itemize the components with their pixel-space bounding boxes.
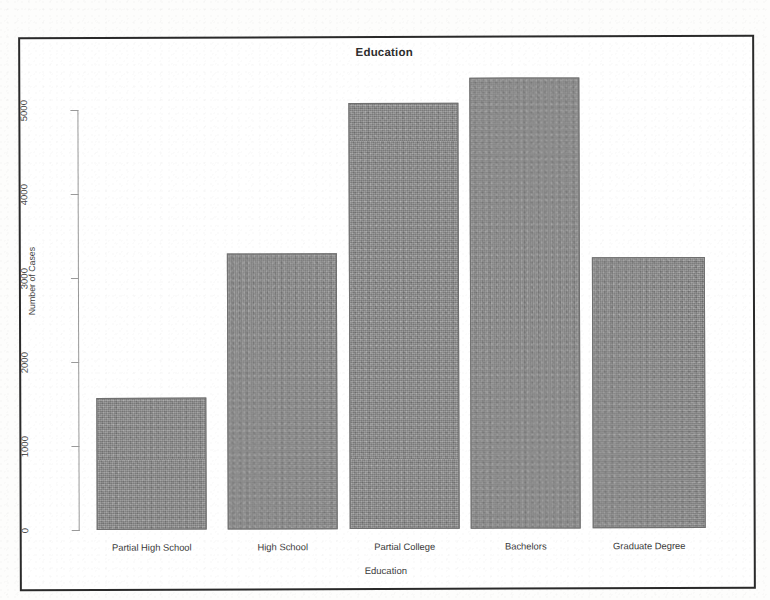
x-axis-label-bachelors: Bachelors — [471, 540, 581, 551]
y-axis-tick-label-0: 0 — [19, 501, 30, 561]
x-axis-label-graduate-degree: Graduate Degree — [593, 540, 706, 551]
y-axis-tick-3000 — [71, 278, 79, 279]
y-axis-title: Number of Cases — [27, 226, 37, 336]
y-axis-tick-label-4000: 4000 — [18, 165, 29, 225]
x-axis-title: Education — [1, 564, 770, 577]
x-axis-label-partial-college: Partial College — [350, 541, 460, 552]
x-axis-label-high-school: High School — [228, 541, 338, 552]
y-axis-tick-label-1000: 1000 — [19, 417, 30, 477]
y-axis-tick-4000 — [71, 194, 79, 195]
y-axis-line — [77, 110, 80, 531]
bar-graduate-degree — [592, 257, 706, 529]
x-axis-label-partial-high-school: Partial High School — [97, 542, 207, 553]
bar-chart-figure: Education 0 1000 2000 3000 4000 5000 Num… — [0, 0, 770, 600]
scanned-chart-page: Education 0 1000 2000 3000 4000 5000 Num… — [0, 0, 770, 600]
y-axis-tick-5000 — [70, 110, 78, 111]
y-axis-tick-label-5000: 5000 — [18, 81, 29, 141]
bar-bachelors — [469, 77, 580, 528]
chart-title: Education — [0, 45, 769, 59]
bar-high-school — [227, 253, 338, 530]
y-axis-tick-2000 — [71, 362, 79, 363]
bar-partial-high-school — [96, 398, 206, 530]
y-axis-tick-0 — [72, 530, 80, 531]
bar-partial-college — [348, 103, 459, 529]
y-axis-tick-label-2000: 2000 — [19, 333, 30, 393]
y-axis-tick-1000 — [71, 446, 79, 447]
